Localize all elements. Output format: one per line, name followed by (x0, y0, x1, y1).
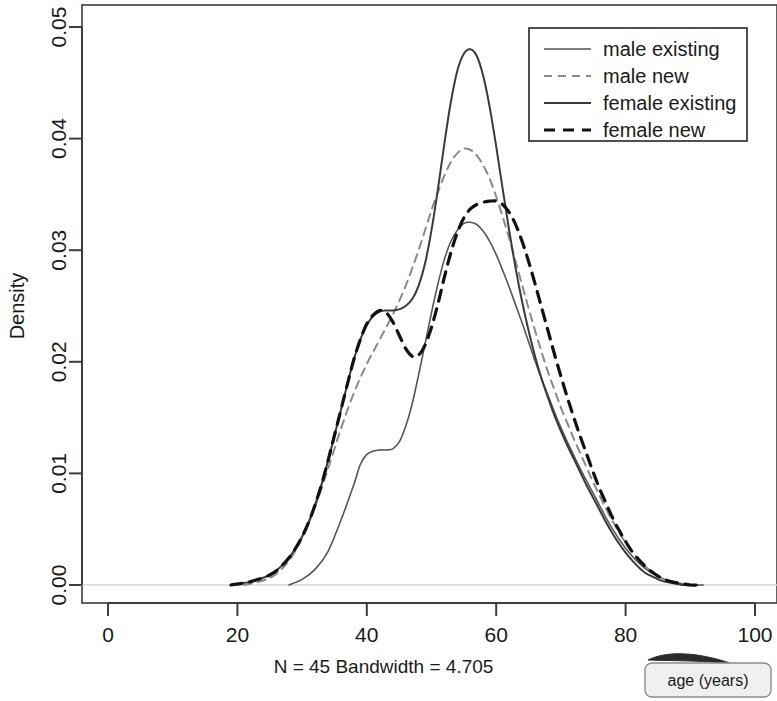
y-tick-label: 0.02 (47, 341, 70, 382)
y-tick-label: 0.01 (47, 453, 70, 494)
x-tick-label: 80 (614, 623, 637, 646)
legend-label: female existing (603, 92, 736, 114)
density-plot-figure: 0.000.010.020.030.040.05Density020406080… (0, 0, 777, 701)
x-tick-label: 100 (737, 623, 772, 646)
y-tick-label: 0.00 (47, 565, 70, 606)
legend-label: male new (603, 65, 689, 87)
density-chart: 0.000.010.020.030.040.05Density020406080… (0, 0, 777, 701)
y-axis-label: Density (6, 273, 28, 340)
x-tick-label: 40 (355, 623, 378, 646)
y-tick-label: 0.03 (47, 230, 70, 271)
chart-subtitle: N = 45 Bandwidth = 4.705 (274, 656, 494, 677)
x-tick-label: 0 (102, 623, 114, 646)
density-curve (289, 222, 703, 585)
legend-label: female new (603, 119, 706, 141)
legend-label: male existing (603, 38, 720, 60)
y-tick-label: 0.05 (47, 7, 70, 48)
density-curve (231, 201, 697, 585)
density-curve (244, 148, 697, 585)
callout-label: age (years) (668, 672, 749, 689)
x-tick-label: 60 (485, 623, 508, 646)
y-tick-label: 0.04 (47, 118, 70, 159)
x-tick-label: 20 (226, 623, 249, 646)
